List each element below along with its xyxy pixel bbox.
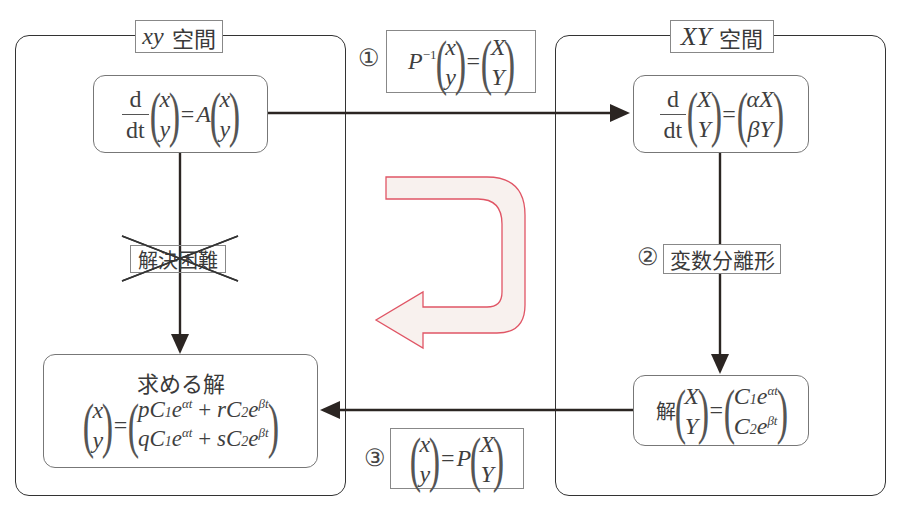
step-2-number: ②: [637, 243, 659, 271]
solution-row-X: C1eαt: [734, 381, 778, 411]
solution-row-x: pC1eαt + rC2eβt: [138, 396, 269, 425]
solution-row-y: qC1eαt + sC2eβt: [138, 425, 269, 454]
solution-row-Y: C2eβt: [734, 411, 778, 441]
general-solution-box: 求める解 (xy) = ( pC1eαt + rC2eβt qC1eαt + s…: [43, 354, 318, 468]
separable-form-label: 変数分離形: [663, 244, 781, 274]
decoupled-solution-box: 解 (XY) = ( C1eαt C2eβt ): [633, 375, 809, 446]
step-3-number: ③: [364, 444, 386, 472]
step-3-transform-box: (xy) = P (XY): [390, 428, 524, 489]
